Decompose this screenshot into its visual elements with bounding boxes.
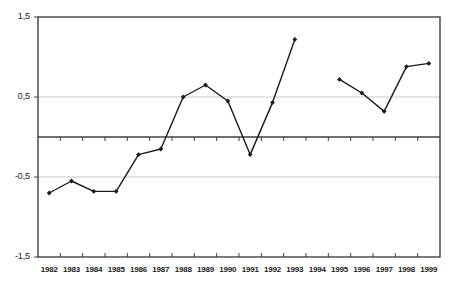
x-axis-label: 1985 <box>105 266 127 274</box>
line-chart: 1,50,5-0,5-1,5 1982198319841985198619871… <box>0 0 454 287</box>
x-axis-label: 1997 <box>373 266 395 274</box>
x-axis-label: 1982 <box>38 266 60 274</box>
x-axis-label: 1998 <box>395 266 417 274</box>
x-axis-label: 1983 <box>60 266 82 274</box>
x-axis-label: 1992 <box>261 266 283 274</box>
x-axis-label: 1993 <box>284 266 306 274</box>
x-axis-label: 1984 <box>83 266 105 274</box>
y-axis-label: 1,5 <box>0 12 30 21</box>
x-axis-label: 1988 <box>172 266 194 274</box>
x-axis-label: 1999 <box>418 266 440 274</box>
x-axis-label: 1990 <box>217 266 239 274</box>
x-axis-label: 1987 <box>150 266 172 274</box>
x-axis-label: 1996 <box>351 266 373 274</box>
y-axis-label: -0,5 <box>0 172 30 181</box>
x-axis-label: 1989 <box>194 266 216 274</box>
y-axis-label: 0,5 <box>0 92 30 101</box>
y-axis-label: -1,5 <box>0 252 30 261</box>
x-axis-label: 1994 <box>306 266 328 274</box>
x-axis-label: 1986 <box>127 266 149 274</box>
plot-area <box>0 0 454 287</box>
x-axis-label: 1995 <box>328 266 350 274</box>
x-axis-label: 1991 <box>239 266 261 274</box>
